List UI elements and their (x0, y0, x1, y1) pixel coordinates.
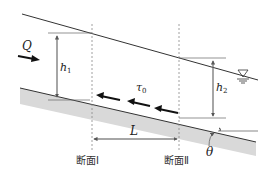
discharge-symbol: Q (22, 39, 32, 53)
depth1-subscript: 1 (67, 67, 71, 75)
shear-stress-label: τ0 (136, 82, 147, 95)
depth2-subscript: 2 (223, 87, 227, 95)
discharge-label: Q (22, 40, 32, 52)
depth2-label: h2 (216, 82, 228, 95)
diagram-canvas: Q h1 h2 τ0 L θ 断面Ⅰ 断面Ⅱ (0, 0, 273, 178)
length-symbol: L (130, 124, 138, 138)
channel-bed (20, 88, 256, 156)
discharge-arrow-icon (18, 55, 40, 62)
depth1-label: h1 (60, 62, 72, 75)
water-surface-line (22, 14, 258, 80)
length-label: L (130, 125, 138, 137)
shear-subscript: 0 (142, 87, 146, 95)
angle-symbol: θ (206, 145, 213, 159)
bed-line (20, 88, 256, 142)
angle-label: θ (206, 146, 213, 158)
section-1-label: 断面Ⅰ (76, 156, 99, 166)
section-2-label: 断面Ⅱ (164, 156, 189, 166)
